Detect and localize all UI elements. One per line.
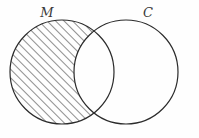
venn-diagram-figure: M C xyxy=(0,0,199,138)
venn-diagram-canvas: M C xyxy=(0,0,199,138)
set-label-m: M xyxy=(39,5,54,20)
set-label-c: C xyxy=(143,5,153,20)
